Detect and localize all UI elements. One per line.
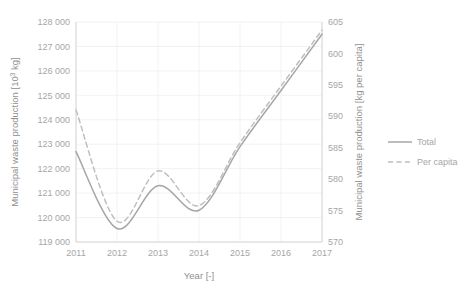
secondary-y-axis-tick-label: 590 xyxy=(328,111,343,121)
x-axis-tick-label: 2017 xyxy=(312,248,332,258)
y-axis-tick-label: 122 000 xyxy=(37,164,70,174)
legend-label: Total xyxy=(417,137,436,147)
y-axis-tick-label: 125 000 xyxy=(37,91,70,101)
secondary-y-axis-tick-label: 570 xyxy=(328,237,343,247)
secondary-y-axis-tick-label: 575 xyxy=(328,206,343,216)
secondary-y-axis-tick-label: 605 xyxy=(328,17,343,27)
y-axis-tick-label: 126 000 xyxy=(37,66,70,76)
gridlines xyxy=(76,22,322,242)
chart-legend: TotalPer capita xyxy=(388,137,458,167)
y-axis-tick-label: 119 000 xyxy=(38,237,70,247)
secondary-y-axis-tick-labels: 605600595590585580575570 xyxy=(328,17,343,247)
secondary-y-axis-tick-label: 600 xyxy=(328,49,343,59)
x-axis-tick-label: 2014 xyxy=(189,248,209,258)
secondary-y-axis-tick-label: 580 xyxy=(328,174,343,184)
x-axis-tick-labels: 2011201220132014201520162017 xyxy=(66,248,332,258)
y-axis-tick-label: 121 000 xyxy=(37,188,70,198)
y-axis-tick-label: 128 000 xyxy=(37,17,70,27)
legend-label: Per capita xyxy=(417,157,458,167)
secondary-y-axis-title: Municipal waste production [kg per capit… xyxy=(353,44,364,221)
x-axis-tick-label: 2012 xyxy=(107,248,127,258)
secondary-y-axis-tick-label: 595 xyxy=(328,80,343,90)
x-axis-tick-label: 2013 xyxy=(148,248,168,258)
y-axis-tick-labels: 128 000127 000126 000125 000124 000123 0… xyxy=(37,17,70,247)
secondary-y-axis-tick-label: 585 xyxy=(328,143,343,153)
y-axis-title: Municipal waste production [103 kg] xyxy=(9,57,20,206)
y-axis-tick-label: 124 000 xyxy=(37,115,70,125)
x-axis-tick-label: 2011 xyxy=(66,248,85,258)
x-axis-tick-label: 2016 xyxy=(271,248,291,258)
y-axis-tick-label: 127 000 xyxy=(37,42,70,52)
y-axis-tick-label: 120 000 xyxy=(37,213,70,223)
y-axis-tick-label: 123 000 xyxy=(37,139,70,149)
chart-svg: 128 000127 000126 000125 000124 000123 0… xyxy=(0,0,473,294)
x-axis-title: Year [-] xyxy=(184,270,214,281)
chart-container: 128 000127 000126 000125 000124 000123 0… xyxy=(0,0,473,294)
x-axis-tick-label: 2015 xyxy=(230,248,250,258)
